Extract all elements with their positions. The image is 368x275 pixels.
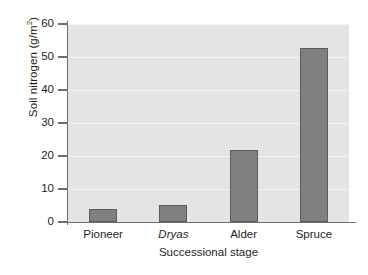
x-axis-line <box>60 222 356 223</box>
bar <box>89 209 117 222</box>
y-axis-tick <box>58 188 67 189</box>
y-axis-tick <box>58 221 67 222</box>
x-axis-tick-label: Spruce <box>264 229 364 241</box>
x-axis-title: Successional stage <box>68 247 349 259</box>
y-axis-tick-label: 10 <box>18 183 54 195</box>
y-axis-tick <box>58 23 67 24</box>
y-axis-tick-label: 0 <box>18 216 54 228</box>
y-axis-tick-label: 60 <box>18 18 54 30</box>
y-axis-tick-label: 40 <box>18 84 54 96</box>
y-axis-tick <box>58 56 67 57</box>
y-axis-tick <box>58 122 67 123</box>
y-axis-tick-label: 30 <box>18 117 54 129</box>
y-axis-line <box>67 21 68 225</box>
bar <box>159 205 187 222</box>
y-axis-tick <box>58 155 67 156</box>
bar <box>300 48 328 222</box>
gridline <box>68 24 349 25</box>
bar-chart-figure: Soil nitrogen (g/m2) 0102030405060 Pione… <box>0 0 368 275</box>
y-axis-tick-label: 50 <box>18 51 54 63</box>
y-axis-title-text: Soil nitrogen (g/m <box>27 25 39 117</box>
y-axis-tick <box>58 89 67 90</box>
y-axis-tick-label: 20 <box>18 150 54 162</box>
bar <box>230 150 258 222</box>
